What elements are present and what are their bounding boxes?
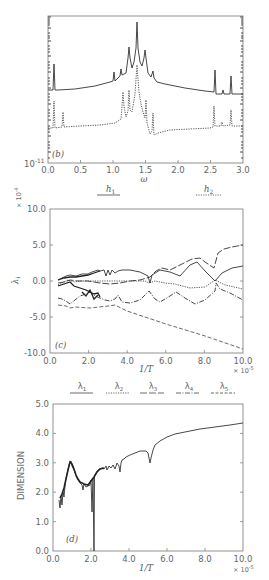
legend-lambda4-label: λ4 [185, 381, 194, 392]
panel-c-y-tick-labels: 10.0 5.0 0.0 -5.0 -10.0 [24, 204, 46, 358]
svg-text:8.0: 8.0 [198, 356, 212, 366]
panel-d-ticks [53, 433, 243, 551]
legend-lambda3-label: λ3 [149, 381, 158, 392]
svg-text:4.0: 4.0 [35, 428, 49, 438]
series-lambda3 [58, 245, 243, 284]
svg-text:0.0: 0.0 [41, 165, 55, 175]
panel-b-x-axis-label: ω [141, 174, 148, 184]
panel-c-ticks [50, 245, 243, 353]
series-h2 [48, 65, 243, 135]
svg-text:3.0: 3.0 [35, 458, 49, 468]
svg-text:2.0: 2.0 [84, 554, 98, 564]
svg-text:2.0: 2.0 [171, 165, 185, 175]
panel-d-x-axis-label: 1/T [139, 563, 154, 573]
legend-lambda2-label: λ2 [115, 381, 124, 392]
legend-h2-label: h2 [204, 184, 213, 195]
svg-text:-5.0: -5.0 [29, 312, 46, 322]
svg-text:0.0: 0.0 [32, 276, 46, 286]
panel-b-spectrum: (b) 10-11 0.0 0.5 1.0 1.5 2.0 2.5 3.0 ω … [24, 16, 250, 195]
panel-c-x-axis-label: 1/T [139, 364, 154, 374]
panel-c-y-multiplier: × 10-4 [13, 187, 23, 208]
svg-text:1.0: 1.0 [106, 165, 120, 175]
legend-lambda5-label: λ5 [220, 381, 229, 392]
panel-d-dimension: 5.0 4.0 3.0 2.0 1.0 0.0 DIMENSION (d) 0.… [16, 399, 254, 574]
series-dimension [59, 423, 243, 551]
panel-b-legend: h1 h2 [97, 184, 222, 195]
svg-text:8.0: 8.0 [198, 554, 212, 564]
svg-text:0.5: 0.5 [74, 165, 88, 175]
svg-text:5.0: 5.0 [35, 399, 49, 409]
panel-d-x-multiplier: × 10-5 [233, 564, 254, 574]
panel-c-legend: λ1 λ2 λ3 λ4 λ5 [70, 381, 235, 393]
panel-b-x-ticks [81, 160, 211, 163]
svg-text:5.0: 5.0 [32, 240, 46, 250]
svg-text:3.0: 3.0 [236, 165, 250, 175]
series-lambda5 [58, 305, 243, 349]
panel-d-y-axis-label: DIMENSION [16, 451, 26, 500]
series-dimension-dense [60, 462, 104, 498]
svg-text:2.0: 2.0 [35, 487, 49, 497]
panel-b-log-ticks [48, 17, 243, 158]
svg-text:4.0: 4.0 [120, 356, 134, 366]
svg-text:2.0: 2.0 [82, 356, 96, 366]
svg-text:0.0: 0.0 [46, 554, 60, 564]
svg-text:1.0: 1.0 [35, 517, 49, 527]
panel-c-lyapunov: × 10-4 10.0 5.0 0.0 -5.0 -10.0 λi (c) 0.… [10, 187, 254, 393]
panel-b-label: (b) [52, 149, 64, 159]
svg-text:10.0: 10.0 [234, 554, 253, 564]
series-lambda1 [58, 262, 243, 283]
series-lambda4 [58, 283, 243, 304]
legend-lambda1-label: λ1 [78, 381, 87, 392]
panel-d-frame [53, 404, 243, 551]
svg-text:10.0: 10.0 [27, 204, 46, 214]
panel-d-label: (d) [66, 534, 78, 544]
svg-text:2.5: 2.5 [204, 165, 218, 175]
panel-c-y-axis-label: λi [10, 277, 21, 285]
svg-text:4.0: 4.0 [122, 554, 136, 564]
panel-c-x-multiplier: × 10-5 [233, 365, 254, 375]
legend-h1-label: h1 [106, 184, 115, 195]
series-h1 [48, 22, 243, 94]
svg-text:0.0: 0.0 [43, 356, 57, 366]
svg-text:6.0: 6.0 [160, 554, 174, 564]
svg-text:6.0: 6.0 [159, 356, 173, 366]
figure: (b) 10-11 0.0 0.5 1.0 1.5 2.0 2.5 3.0 ω … [0, 0, 269, 580]
panel-d-y-tick-labels: 5.0 4.0 3.0 2.0 1.0 0.0 [35, 399, 49, 556]
panel-c-label: (c) [55, 340, 66, 350]
